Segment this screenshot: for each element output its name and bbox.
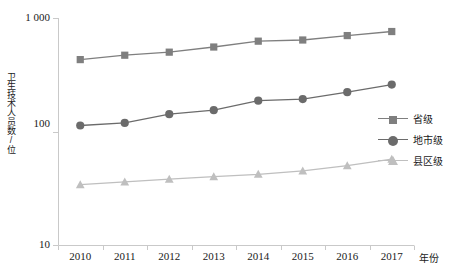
square-marker-icon	[378, 113, 408, 125]
data-point-marker	[210, 106, 218, 114]
legend-label: 县区级	[413, 153, 443, 168]
axes	[53, 18, 415, 250]
data-point-marker	[255, 38, 262, 45]
legend-label: 地市级	[413, 132, 443, 147]
series-line-2	[80, 159, 392, 185]
legend-item-2[interactable]: 县区级	[378, 150, 466, 171]
data-point-marker	[299, 95, 307, 103]
data-point-marker	[344, 32, 351, 39]
x-axis-tick-label-2012: 2012	[144, 250, 194, 262]
chart-legend: 省级地市级县区级	[378, 108, 466, 171]
data-point-marker	[210, 43, 217, 50]
triangle-marker-icon	[378, 155, 408, 167]
x-axis-tick-label-2013: 2013	[189, 250, 239, 262]
data-point-marker	[388, 80, 396, 88]
circle-marker-icon	[378, 134, 408, 146]
x-axis-title: 年份	[419, 250, 439, 265]
data-point-marker	[77, 56, 84, 63]
data-point-marker	[254, 97, 262, 105]
data-point-marker	[388, 28, 395, 35]
data-point-marker	[343, 88, 351, 96]
legend-item-0[interactable]: 省级	[378, 108, 466, 129]
data-point-marker	[166, 49, 173, 56]
chart-container: 卫生技术人员数/位 1 000 100 10 20102011201220132…	[0, 0, 469, 273]
x-axis-tick-label-2011: 2011	[100, 250, 150, 262]
data-point-marker	[76, 121, 84, 129]
data-point-marker	[299, 36, 306, 43]
x-axis-tick-label-2016: 2016	[322, 250, 372, 262]
x-axis-tick-label-2017: 2017	[367, 250, 417, 262]
data-point-marker	[165, 110, 173, 118]
x-axis-tick-label-2014: 2014	[233, 250, 283, 262]
data-series-group	[76, 28, 396, 188]
data-point-marker	[121, 119, 129, 127]
x-axis-tick-label-2015: 2015	[278, 250, 328, 262]
x-axis-tick-label-2010: 2010	[55, 250, 105, 262]
legend-label: 省级	[413, 111, 433, 126]
legend-item-1[interactable]: 地市级	[378, 129, 466, 150]
data-point-marker	[121, 52, 128, 59]
